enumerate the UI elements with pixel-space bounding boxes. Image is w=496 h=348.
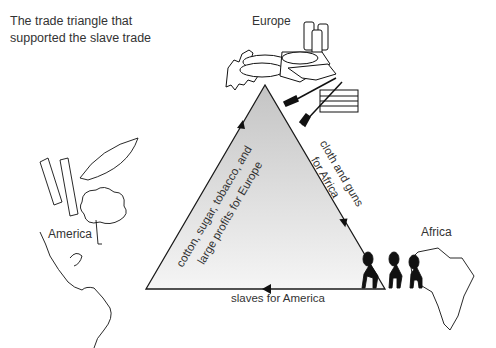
americas-map-icon xyxy=(40,232,111,348)
america-illustration xyxy=(40,138,138,348)
region-label-europe: Europe xyxy=(252,14,291,28)
region-label-america: America xyxy=(48,227,92,241)
africa-map-icon xyxy=(410,248,474,330)
crate-icon xyxy=(320,90,358,112)
edge-label-africa-to-america: slaves for America xyxy=(231,292,326,304)
tobacco-leaf-icon xyxy=(80,138,138,180)
cloth-rolls-icon xyxy=(304,22,328,54)
region-label-africa: Africa xyxy=(421,225,452,239)
trade-triangle-diagram: cotton, sugar, tobacco, and large profit… xyxy=(0,0,496,348)
sugar-cane-icon xyxy=(40,158,78,216)
europe-illustration xyxy=(226,22,358,126)
